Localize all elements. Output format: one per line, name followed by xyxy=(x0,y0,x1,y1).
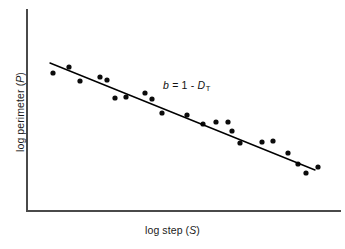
data-point xyxy=(77,78,82,83)
plot-canvas xyxy=(0,0,345,249)
data-point xyxy=(149,96,154,101)
x-axis-title-suffix: ) xyxy=(196,224,200,236)
richardson-log-log-plot: log perimeter (P) log step (S) b = 1 - D… xyxy=(0,0,345,249)
data-point xyxy=(50,70,55,75)
y-axis-title-prefix: log perimeter ( xyxy=(14,83,26,152)
annotation-variable-d: D xyxy=(198,79,206,91)
data-point xyxy=(270,138,275,143)
annotation-subscript: T xyxy=(206,84,211,93)
data-point xyxy=(303,170,308,175)
data-point xyxy=(285,150,290,155)
x-axis-title: log step (S) xyxy=(0,224,345,236)
annotation-equation: = 1 - xyxy=(169,79,198,91)
data-point xyxy=(66,64,71,69)
data-point xyxy=(112,95,117,100)
data-point xyxy=(159,110,164,115)
data-point xyxy=(315,164,320,169)
data-point xyxy=(104,77,109,82)
data-point xyxy=(259,139,264,144)
data-point xyxy=(229,128,234,133)
data-point xyxy=(97,74,102,79)
axes xyxy=(27,10,340,211)
data-point xyxy=(123,94,128,99)
y-axis-title-suffix: ) xyxy=(14,72,26,76)
x-axis-title-prefix: log step ( xyxy=(145,224,189,236)
y-axis-variable: P xyxy=(14,76,26,83)
y-axis-title: log perimeter (P) xyxy=(14,24,26,200)
slope-annotation: b = 1 - DT xyxy=(163,79,210,91)
data-point xyxy=(225,119,230,124)
data-point xyxy=(213,119,218,124)
data-point xyxy=(142,90,147,95)
data-point xyxy=(184,112,189,117)
